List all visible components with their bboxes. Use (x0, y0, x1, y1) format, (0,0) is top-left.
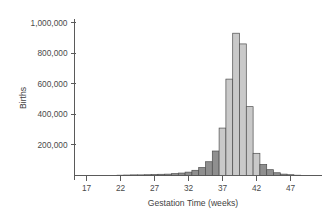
x-tick-label: 17 (82, 183, 92, 193)
histogram-bar (144, 175, 151, 176)
x-tick-label: 47 (286, 183, 296, 193)
y-tick-label: 1,000,000 (31, 18, 68, 28)
histogram-bar (280, 174, 287, 175)
histogram-bar (287, 175, 294, 176)
histogram-bar (138, 175, 145, 176)
x-tick-label: 32 (184, 183, 194, 193)
histogram-bar (260, 164, 267, 175)
histogram-bar (240, 44, 247, 176)
x-tick-label: 37 (218, 183, 228, 193)
histogram-bar (199, 168, 206, 176)
y-tick-label: 400,000 (38, 109, 68, 119)
x-axis-title: Gestation Time (weeks) (148, 198, 238, 208)
histogram-bar (233, 33, 240, 175)
chart-canvas: 200,000400,000600,000800,0001,000,000 17… (0, 0, 331, 216)
y-tick-label: 200,000 (38, 140, 68, 150)
histogram-bar (212, 151, 219, 175)
histogram-bar (206, 162, 213, 176)
y-tick-label: 600,000 (38, 79, 68, 89)
histogram-bar (246, 107, 253, 176)
chart-background (0, 0, 331, 216)
y-axis-title: Births (18, 87, 28, 109)
histogram-bar (253, 153, 260, 175)
histogram-bar (185, 172, 192, 175)
histogram-chart: 200,000400,000600,000800,0001,000,000 17… (0, 0, 331, 216)
histogram-bar (172, 174, 179, 176)
x-tick-label: 22 (116, 183, 126, 193)
histogram-bar (274, 173, 281, 176)
histogram-bar (192, 170, 199, 175)
histogram-bar (131, 175, 138, 176)
y-tick-label: 800,000 (38, 48, 68, 58)
histogram-bar (165, 174, 172, 175)
x-tick-label: 27 (150, 183, 160, 193)
histogram-bar (219, 128, 226, 175)
histogram-bar (226, 79, 233, 175)
histogram-bar (178, 173, 185, 175)
histogram-bar (158, 174, 165, 175)
histogram-bar (151, 175, 158, 176)
x-tick-label: 42 (252, 183, 262, 193)
histogram-bar (267, 170, 274, 176)
